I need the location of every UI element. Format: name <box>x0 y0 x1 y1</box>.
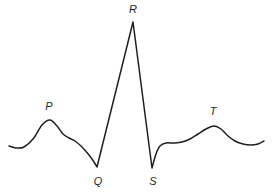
ecg-waveform-svg: P Q R S T <box>0 0 273 196</box>
label-q-wave: Q <box>94 175 103 187</box>
label-r-wave: R <box>129 3 137 15</box>
label-t-wave: T <box>210 105 218 117</box>
label-p-wave: P <box>45 100 53 112</box>
label-s-wave: S <box>149 175 157 187</box>
ecg-figure: P Q R S T <box>0 0 273 196</box>
ecg-trace <box>9 22 264 168</box>
